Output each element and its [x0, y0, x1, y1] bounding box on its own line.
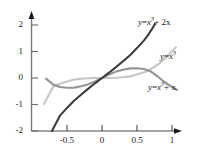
x-tick-label-1: 1	[159, 136, 185, 145]
y-tick-label-2: 2	[6, 20, 23, 29]
curve-label-x-cubed: y=x3	[160, 51, 176, 61]
x-tick-label-neg05: -0.5	[49, 136, 85, 145]
y-tick-label-1: 1	[6, 47, 23, 56]
y-axis-arrow-icon	[29, 11, 35, 19]
y-tick-label-0: 0	[6, 73, 23, 82]
x-tick-marks	[67, 125, 172, 131]
y-tick-marks	[32, 25, 39, 131]
curve-label-tail: + 2x	[154, 17, 170, 27]
plot-canvas	[0, 0, 212, 158]
curve-label-x-cubed-plus-2x: y=x3+ 2x	[138, 17, 170, 27]
y-tick-label-neg2: -2	[2, 126, 23, 135]
cubic-functions-figure: 2 1 0 -1 -2 -0.5 0 0.5 1 y=x3+ 2x y=x3 y…	[0, 0, 212, 158]
y-tick-label-neg1: -1	[2, 100, 23, 109]
curve-label-tail: + x	[164, 82, 176, 92]
x-axis-arrow-icon	[174, 128, 182, 133]
x-tick-label-0: 0	[88, 136, 116, 145]
x-tick-label-05: 0.5	[122, 136, 152, 145]
curve-label-x-cubed-plus-x: y=x3+ x	[148, 82, 176, 92]
curve-x-cubed-plus-2x	[52, 24, 155, 131]
curve-label-exponent: 3	[173, 50, 176, 56]
